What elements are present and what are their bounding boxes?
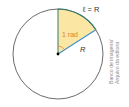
sector-label: 1 rad (62, 31, 78, 38)
credit-line-2: Arquivo da editora (114, 40, 120, 84)
image-credit: Banco de imagens/ Arquivo da editora (108, 40, 120, 84)
radius-label: R (80, 45, 86, 54)
center-point (57, 53, 60, 56)
arc-label: ℓ = R (82, 5, 100, 14)
